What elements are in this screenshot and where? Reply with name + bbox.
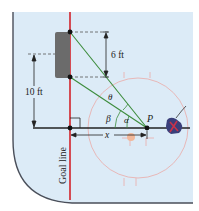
goal-net (55, 32, 70, 78)
six-ft-label: 6 ft (111, 50, 124, 60)
rink-fade (13, 0, 199, 12)
alpha-label: α (124, 115, 129, 125)
theta-label: θ (108, 92, 113, 102)
x-label: x (104, 130, 110, 140)
rink-surface (13, 12, 193, 203)
p-label: P (146, 113, 153, 124)
point-p (145, 126, 150, 131)
goal-post-bottom (68, 75, 73, 80)
ten-ft-label: 10 ft (25, 87, 43, 97)
hockey-shot-angle-diagram: 6 ft 10 ft x θ β α P Goal line (0, 0, 199, 211)
goal-center-point (68, 126, 73, 131)
faceoff-dot (127, 133, 135, 141)
goal-post-top (68, 30, 73, 35)
goal-line-label: Goal line (57, 147, 68, 184)
beta-label: β (105, 114, 111, 124)
